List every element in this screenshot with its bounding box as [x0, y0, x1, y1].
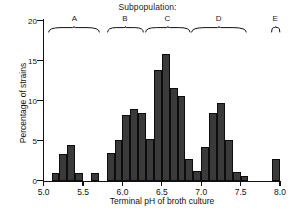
y-axis-tick [37, 140, 43, 141]
y-axis-tick [37, 60, 43, 61]
x-axis-label: Terminal pH of broth culture [43, 196, 281, 206]
histogram-bar [75, 173, 83, 180]
x-axis-tick [161, 181, 162, 186]
histogram-bar [59, 154, 67, 180]
y-axis-tick [37, 100, 43, 101]
x-axis-tick-label: 5.0 [38, 187, 50, 197]
histogram-figure: Subpopulation: ABCDE Percentage of strai… [0, 0, 295, 208]
histogram-bar [233, 172, 241, 181]
y-axis-tick-label: 5 [33, 136, 37, 145]
histogram-bar [162, 54, 170, 180]
x-axis-tick-label: 7.5 [235, 187, 247, 197]
histogram-bar [154, 70, 162, 180]
histogram-bar [201, 147, 209, 181]
histogram-bar [193, 171, 201, 181]
histogram-bar [241, 176, 249, 181]
y-axis-tick-label: 15 [28, 56, 37, 65]
histogram-bar [138, 113, 146, 181]
histogram-bar [130, 109, 138, 181]
histogram-bar [67, 145, 75, 181]
x-axis-tick [122, 181, 123, 186]
x-axis-tick-label: 8.0 [274, 187, 286, 197]
histogram-bar [272, 159, 280, 181]
x-axis-tick-label: 5.5 [77, 187, 89, 197]
plot-area: Percentage of strains Terminal pH of bro… [0, 0, 295, 208]
x-axis-tick [240, 181, 241, 186]
bar-series [0, 0, 295, 208]
x-axis-tick [43, 181, 44, 186]
histogram-bar [185, 159, 193, 181]
histogram-bar [178, 96, 186, 181]
x-axis-tick [279, 181, 280, 186]
histogram-bar [107, 153, 115, 180]
y-axis-tick-label: 10 [28, 96, 37, 105]
y-axis-label: Percentage of strains [18, 28, 28, 178]
histogram-bar [91, 173, 99, 181]
y-axis-tick-label: 20 [28, 16, 37, 25]
histogram-bar [170, 88, 178, 181]
histogram-bar [52, 173, 60, 181]
x-axis-tick-label: 6.0 [117, 187, 129, 197]
histogram-bar [225, 140, 233, 181]
histogram-bar [115, 140, 123, 181]
x-axis-tick [201, 181, 202, 186]
histogram-bar [122, 115, 130, 181]
x-axis-tick [82, 181, 83, 186]
histogram-bar [209, 113, 217, 180]
histogram-bar [146, 139, 154, 181]
x-axis-tick-label: 6.5 [156, 187, 168, 197]
y-axis-tick [37, 20, 43, 21]
histogram-bar [217, 103, 225, 181]
y-axis-tick-label: 0 [33, 176, 37, 185]
x-axis-tick-label: 7.0 [195, 187, 207, 197]
